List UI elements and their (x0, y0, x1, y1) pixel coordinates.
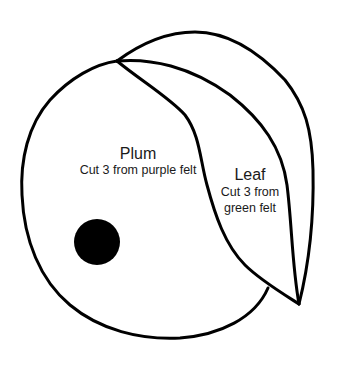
pattern-outlines (0, 0, 340, 366)
plum-outline (22, 61, 268, 338)
leaf-instruction-line2: green felt (210, 202, 290, 215)
leaf-title: Leaf (220, 167, 280, 183)
plum-title: Plum (88, 146, 188, 162)
plum-dot-marker (74, 219, 120, 265)
plum-instruction: Cut 3 from purple felt (48, 164, 228, 177)
leaf-instruction-line1: Cut 3 from (210, 186, 290, 199)
pattern-diagram: Plum Cut 3 from purple felt Leaf Cut 3 f… (0, 0, 340, 366)
